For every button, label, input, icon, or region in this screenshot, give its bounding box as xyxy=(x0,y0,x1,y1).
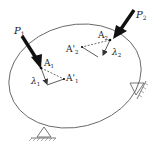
label-lambda2: λ2 xyxy=(111,47,121,58)
displacement-a1 xyxy=(40,67,65,85)
label-lambda1: λ1 xyxy=(30,76,40,87)
label-a1: A1 xyxy=(43,58,54,69)
point-a2-prime xyxy=(81,46,83,48)
bottom-pin-support xyxy=(29,127,56,141)
displacement-a2 xyxy=(81,39,111,57)
label-a2-prime: A'2 xyxy=(65,44,78,55)
label-a2: A2 xyxy=(97,30,108,41)
point-a1 xyxy=(40,67,43,70)
force-p2-arrow xyxy=(113,10,134,39)
point-a2 xyxy=(109,39,112,42)
label-p2: P2 xyxy=(135,9,147,21)
label-p1: P1 xyxy=(13,25,25,37)
point-a1-prime xyxy=(63,78,65,80)
label-a1-prime: A'1 xyxy=(65,73,78,84)
mechanics-diagram: P1 P2 A1 A'1 λ1 A2 A'2 λ2 xyxy=(0,0,149,154)
